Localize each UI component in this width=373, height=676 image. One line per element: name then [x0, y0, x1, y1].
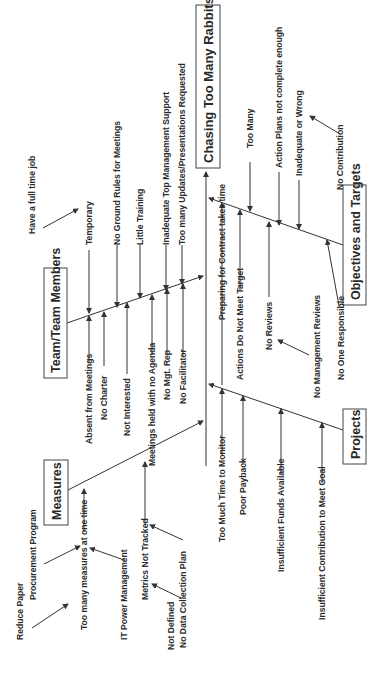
cause-label: Inadequate or Wrong: [294, 90, 304, 176]
subcause-line: [43, 209, 78, 228]
cause-label: Temporary: [84, 201, 94, 245]
bone-objectives: [209, 198, 343, 245]
cause-label: Not Interested: [122, 378, 132, 436]
subcause-label: Not Defined: [166, 602, 176, 650]
category-label: Objectives and Targets: [349, 163, 363, 300]
cause-label: Meetings held with no Agenda: [147, 342, 157, 466]
cause-label: No One Responsible: [336, 296, 346, 380]
cause-label: Poor Payback: [238, 458, 248, 515]
category-label: Team/Team Members: [49, 248, 63, 373]
cause-label: Action Plans not complete enough: [274, 27, 284, 168]
cause-label: Insufficient Contribution to Meet Goal: [317, 466, 327, 620]
cause-label: No Ground Rules for Meetings: [112, 121, 122, 245]
fishbone-diagram: Chasing Too Many Rabbits Measures Team/T…: [0, 0, 373, 676]
cause-label: No Reviews: [264, 302, 274, 350]
cause-label: Metrics Not Tracked: [140, 518, 150, 600]
category-label: Measures: [50, 462, 64, 520]
subcause-label: Reduce Paper: [15, 582, 25, 640]
cause-label: Preparing for Contract takes time: [217, 184, 227, 320]
category-label: Projects: [349, 410, 363, 459]
category-measures: Measures: [44, 460, 68, 525]
subcause-line: [32, 604, 68, 628]
cause-label: Insufficient Funds Available: [276, 458, 286, 572]
effect-box: Chasing Too Many Rabbits: [196, 0, 220, 168]
subcause-line: [152, 584, 181, 598]
cause-label: Too Much Time to Monitor: [217, 435, 227, 542]
subcause-label: No Contribution: [335, 125, 345, 190]
bone-projects: [209, 384, 343, 430]
cause-label: Actions Do Not Meet Target: [235, 268, 245, 380]
category-team: Team/Team Members: [44, 248, 67, 378]
cause-label: Absent from Meetings: [84, 354, 94, 444]
cause-label: Too many measures at one time: [79, 500, 89, 630]
cause-label: No Charter: [99, 375, 109, 420]
effect-label: Chasing Too Many Rabbits: [201, 0, 216, 163]
cause-label: Too Many: [245, 108, 255, 148]
cause-label: No Facilitator: [178, 348, 188, 404]
cause-label: Little Training: [135, 189, 145, 245]
subcause-line: [278, 340, 309, 355]
subcause-label: Have a full time job: [27, 156, 37, 234]
subcause-line: [150, 525, 183, 540]
subcause-line: [44, 546, 80, 564]
subcause-label: IT Power Management: [119, 549, 129, 640]
cause-label: Too many Updates/Presentations Requested: [177, 63, 187, 245]
subcause-label: Procurement Program: [28, 509, 38, 600]
category-objectives: Objectives and Targets: [343, 163, 366, 305]
subcause-label: No Management Reviews: [312, 295, 322, 398]
subcause-label: No Data Collection Plan: [178, 551, 188, 648]
cause-label: No Mgt. Rep: [162, 350, 172, 400]
cause-label: Inadequate Top Management Support: [161, 92, 171, 245]
category-projects: Projects: [343, 409, 366, 464]
